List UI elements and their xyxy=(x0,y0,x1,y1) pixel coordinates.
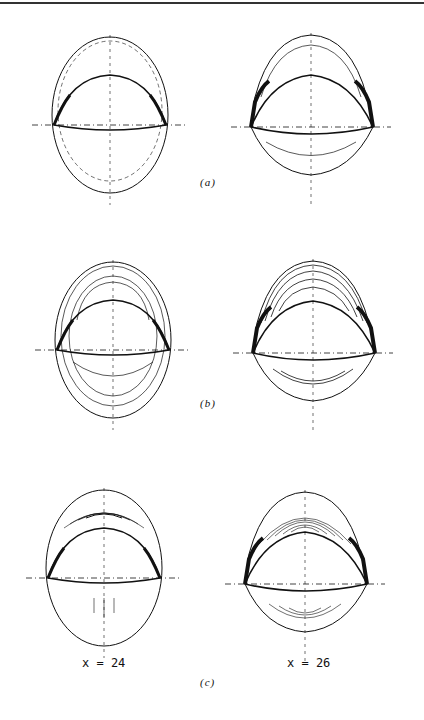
contour-figure xyxy=(0,0,424,720)
column-label-right: x = 26 xyxy=(287,656,330,670)
panel-c-left xyxy=(26,488,182,658)
panel-b-right xyxy=(233,259,393,433)
panel-label-c: (c) xyxy=(200,676,215,688)
panel-a-left xyxy=(32,35,188,205)
column-label-left: x = 24 xyxy=(82,656,125,670)
panel-c-right xyxy=(225,490,385,664)
panel-label-b: (b) xyxy=(200,397,216,409)
panel-a-right xyxy=(231,33,391,207)
panel-b-left xyxy=(35,260,191,430)
panel-label-a: (a) xyxy=(200,176,216,188)
